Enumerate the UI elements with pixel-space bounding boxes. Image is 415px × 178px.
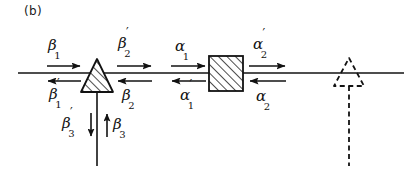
label-alpha1-prime: α ′ 1	[180, 88, 190, 103]
label-beta1-prime: β ′ 1	[49, 87, 58, 102]
label-beta3-prime: β ′ 3	[62, 116, 71, 131]
hatched-square-element	[209, 56, 243, 91]
diagram-canvas	[0, 0, 415, 178]
label-alpha1: α 1	[175, 39, 185, 54]
dashed-triangle-element	[334, 58, 364, 166]
label-alpha2-prime: α ′ 2	[253, 37, 263, 52]
hatched-square	[209, 56, 243, 91]
label-beta2-prime: β ′ 2	[118, 36, 127, 51]
label-beta1: β 1	[48, 38, 57, 53]
label-beta2: β 2	[122, 88, 131, 103]
hatched-triangle	[81, 59, 113, 92]
label-alpha2: α 2	[256, 89, 266, 104]
label-beta3: β 3	[113, 117, 122, 132]
dashed-triangle	[334, 58, 364, 86]
hatched-triangle-element	[81, 59, 113, 166]
